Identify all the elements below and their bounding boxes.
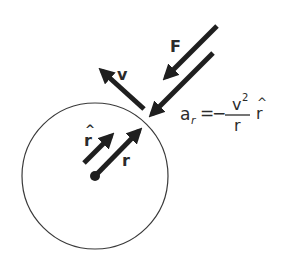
acceleration-equation: a r = − v 2 r ^ r xyxy=(180,92,267,135)
accel-symbol: a xyxy=(180,104,190,124)
numerator-exponent: 2 xyxy=(242,92,248,103)
radius-label: r xyxy=(122,151,130,170)
radius-arrow xyxy=(95,131,139,176)
accel-subscript: r xyxy=(191,114,197,127)
numerator-v: v xyxy=(232,95,241,114)
force-label: F xyxy=(170,37,181,56)
denominator-r: r xyxy=(234,116,241,135)
unit-radius-label: r xyxy=(84,131,92,150)
circular-motion-diagram: F v r ^ r a r = − v 2 r ^ r xyxy=(0,0,282,257)
minus-sign: − xyxy=(212,103,226,123)
rhs-unit-r: r xyxy=(256,104,263,123)
velocity-label: v xyxy=(117,65,128,84)
